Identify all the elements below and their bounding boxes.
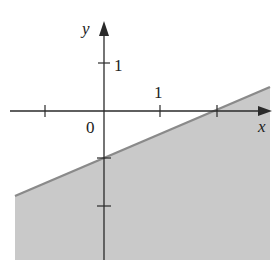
y-tick-label-1: 1 bbox=[114, 56, 123, 75]
x-tick-label-1: 1 bbox=[154, 83, 163, 102]
inequality-graph: y 1 1 0 x bbox=[0, 0, 273, 271]
y-axis-arrow-icon bbox=[99, 21, 109, 36]
x-axis-label: x bbox=[257, 117, 266, 136]
shaded-region bbox=[15, 87, 270, 260]
origin-label: 0 bbox=[86, 118, 95, 137]
y-axis-label: y bbox=[80, 19, 90, 38]
